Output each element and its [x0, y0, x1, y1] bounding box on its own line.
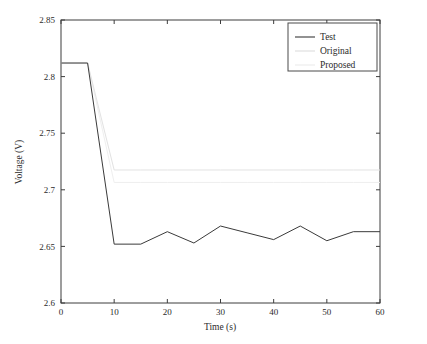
legend-label-original: Original — [320, 46, 352, 56]
x-tick-label-40: 40 — [269, 307, 279, 317]
y-tick-label-2.8: 2.8 — [44, 72, 56, 82]
x-tick-label-0: 0 — [59, 307, 64, 317]
chart-legend: TestOriginalProposed — [288, 23, 377, 71]
y-tick-label-2.65: 2.65 — [39, 242, 55, 252]
x-tick-label-10: 10 — [110, 307, 120, 317]
chart-figure: 0102030405060 2.62.652.72.752.82.85 Time… — [0, 0, 427, 344]
legend-label-test: Test — [320, 32, 336, 42]
legend-label-proposed: Proposed — [320, 60, 356, 70]
x-axis-title: Time (s) — [204, 322, 236, 333]
x-tick-label-20: 20 — [163, 307, 173, 317]
y-axis-title: Voltage (V) — [14, 140, 25, 184]
x-tick-label-50: 50 — [322, 307, 332, 317]
voltage-time-line-chart: 0102030405060 2.62.652.72.752.82.85 Time… — [0, 0, 427, 344]
x-tick-label-30: 30 — [216, 307, 226, 317]
y-tick-label-2.7: 2.7 — [44, 185, 56, 195]
y-tick-label-2.85: 2.85 — [39, 15, 55, 25]
y-tick-label-2.6: 2.6 — [44, 298, 56, 308]
y-tick-label-2.75: 2.75 — [39, 128, 55, 138]
x-tick-label-60: 60 — [376, 307, 386, 317]
